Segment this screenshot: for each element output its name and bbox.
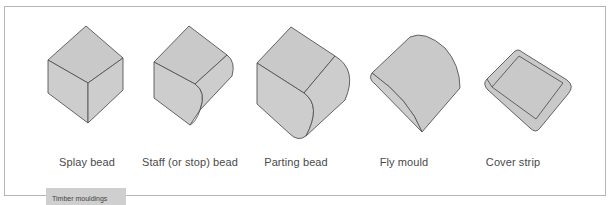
figure-caption: Timber mouldings (46, 188, 126, 205)
label-cover-strip: Cover strip (486, 156, 540, 168)
cover-strip-icon (0, 0, 611, 205)
cover-strip-illustration (0, 0, 611, 205)
label-fly-mould: Fly mould (380, 156, 429, 168)
label-splay-bead: Splay bead (59, 156, 115, 168)
label-parting-bead: Parting bead (264, 156, 328, 168)
label-staff-bead: Staff (or stop) bead (142, 156, 238, 168)
